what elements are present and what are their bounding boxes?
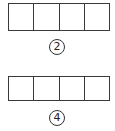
cell (60, 4, 85, 30)
cell (34, 77, 59, 100)
cell (85, 4, 109, 30)
cell (60, 77, 85, 100)
strip-figure-2 (8, 3, 110, 31)
strip-figure-4 (8, 76, 110, 101)
cell (34, 4, 59, 30)
cell (9, 4, 34, 30)
figure-label-4: 4 (49, 110, 65, 126)
cell (9, 77, 34, 100)
cell (85, 77, 109, 100)
figure-label-2: 2 (49, 39, 65, 55)
